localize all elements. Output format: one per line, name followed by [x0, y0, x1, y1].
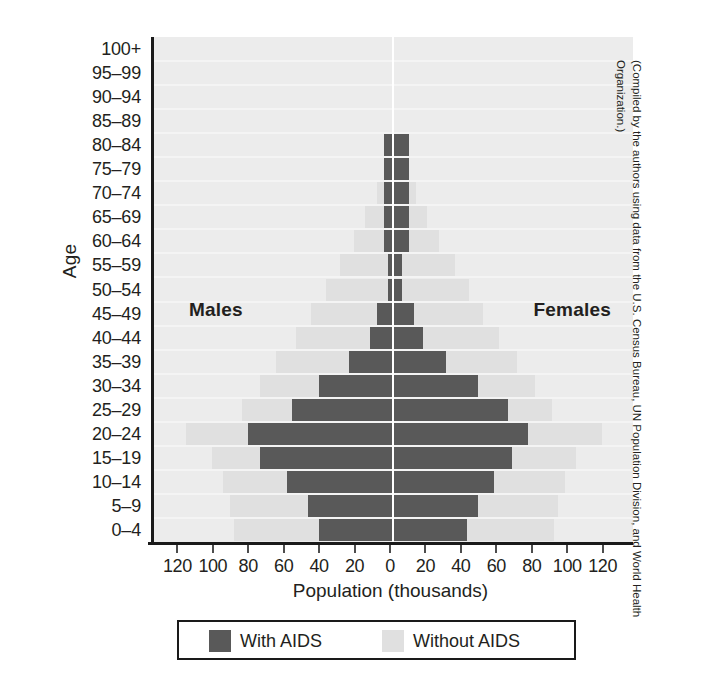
bar-female-with-aids — [393, 230, 409, 252]
source-note: (Compiled by the authors using data from… — [611, 60, 645, 680]
bar-male-without-aids — [340, 254, 388, 276]
y-tick-label: 90–94 — [92, 88, 141, 106]
bar-female-with-aids — [393, 519, 467, 541]
bar-female-with-aids — [393, 399, 508, 421]
plot-inner — [154, 37, 633, 542]
bar-male-without-aids — [365, 206, 384, 228]
bar-female-with-aids — [393, 423, 528, 445]
bar-male-with-aids — [370, 327, 393, 349]
y-tick-label: 10–14 — [92, 473, 141, 491]
x-tick-mark — [176, 545, 178, 553]
bar-male-without-aids — [234, 519, 319, 541]
bar-male-with-aids — [319, 519, 393, 541]
x-tick-mark — [283, 545, 285, 553]
bar-male-without-aids — [223, 471, 287, 493]
bar-female-without-aids — [478, 375, 535, 397]
y-tick-label: 85–89 — [92, 112, 141, 130]
population-pyramid-figure: Age 100+95–9990–9485–8980–8475–7970–7465… — [0, 0, 721, 698]
x-tick-mark — [460, 545, 462, 553]
y-tick-label: 100+ — [101, 40, 141, 58]
y-tick-label: 65–69 — [92, 208, 141, 226]
y-tick-label: 40–44 — [92, 329, 141, 347]
y-tick-label: 80–84 — [92, 136, 141, 154]
x-tick-mark — [212, 545, 214, 553]
bar-male-with-aids — [308, 495, 393, 517]
legend-label-without-aids: Without AIDS — [413, 631, 520, 652]
legend-swatch-with-aids — [209, 630, 231, 652]
x-tick-mark — [389, 545, 391, 553]
bar-male-with-aids — [292, 399, 393, 421]
y-tick-label: 70–74 — [92, 184, 141, 202]
bar-female-without-aids — [402, 279, 469, 301]
bar-female-without-aids — [508, 399, 552, 421]
bar-male-without-aids — [377, 182, 384, 204]
bar-female-without-aids — [409, 230, 439, 252]
bar-female-without-aids — [402, 254, 455, 276]
bar-female-with-aids — [393, 254, 402, 276]
bar-female-without-aids — [467, 519, 554, 541]
bar-female-without-aids — [494, 471, 565, 493]
y-tick-label: 75–79 — [92, 160, 141, 178]
bar-female-with-aids — [393, 182, 409, 204]
bar-male-with-aids — [319, 375, 393, 397]
bar-female-with-aids — [393, 158, 409, 180]
x-tick-mark — [424, 545, 426, 553]
bar-female-with-aids — [393, 471, 494, 493]
x-tick-mark — [247, 545, 249, 553]
bar-female-with-aids — [393, 279, 402, 301]
bar-male-without-aids — [354, 230, 384, 252]
bar-male-without-aids — [212, 447, 260, 469]
bar-female-with-aids — [393, 447, 512, 469]
y-tick-label: 55–59 — [92, 256, 141, 274]
bar-male-without-aids — [276, 351, 349, 373]
legend-swatch-without-aids — [382, 630, 404, 652]
y-tick-label: 60–64 — [92, 232, 141, 250]
bar-female-with-aids — [393, 327, 423, 349]
y-tick-label: 15–19 — [92, 449, 141, 467]
bar-female-without-aids — [409, 182, 416, 204]
bar-female-without-aids — [446, 351, 517, 373]
y-tick-label: 95–99 — [92, 64, 141, 82]
bar-female-without-aids — [414, 303, 483, 325]
x-tick-mark — [318, 545, 320, 553]
x-tick-mark — [566, 545, 568, 553]
y-tick-label: 25–29 — [92, 401, 141, 419]
y-tick-label: 5–9 — [112, 497, 141, 515]
plot-area: Males Females — [151, 37, 633, 542]
bar-male-with-aids — [260, 447, 393, 469]
bar-male-with-aids — [349, 351, 393, 373]
y-tick-label: 0–4 — [112, 521, 141, 539]
center-axis-line — [392, 37, 394, 542]
bar-female-without-aids — [512, 447, 576, 469]
y-tick-label: 35–39 — [92, 353, 141, 371]
y-axis-tick-labels: 100+95–9990–9485–8980–8475–7970–7465–696… — [50, 37, 145, 542]
legend-item-with-aids: With AIDS — [209, 630, 322, 652]
annotation-females: Females — [534, 299, 611, 321]
bar-female-with-aids — [393, 303, 414, 325]
bar-male-without-aids — [326, 279, 388, 301]
y-tick-label: 45–49 — [92, 305, 141, 323]
bar-female-without-aids — [528, 423, 602, 445]
x-tick-mark — [602, 545, 604, 553]
bar-female-with-aids — [393, 134, 409, 156]
x-tick-mark — [354, 545, 356, 553]
bar-female-without-aids — [478, 495, 558, 517]
bar-male-without-aids — [242, 399, 292, 421]
annotation-males: Males — [189, 299, 243, 321]
bar-male-without-aids — [311, 303, 377, 325]
bar-male-without-aids — [230, 495, 308, 517]
y-tick-label: 30–34 — [92, 377, 141, 395]
bar-male-with-aids — [377, 303, 393, 325]
bar-female-with-aids — [393, 495, 478, 517]
x-tick-mark — [531, 545, 533, 553]
y-tick-label: 50–54 — [92, 281, 141, 299]
x-tick-mark — [495, 545, 497, 553]
legend-item-without-aids: Without AIDS — [382, 630, 520, 652]
bar-female-without-aids — [423, 327, 499, 349]
bar-male-with-aids — [287, 471, 393, 493]
bar-female-with-aids — [393, 206, 409, 228]
legend: With AIDS Without AIDS — [177, 620, 576, 660]
bar-female-without-aids — [409, 206, 427, 228]
bar-male-without-aids — [296, 327, 370, 349]
bar-male-with-aids — [248, 423, 393, 445]
